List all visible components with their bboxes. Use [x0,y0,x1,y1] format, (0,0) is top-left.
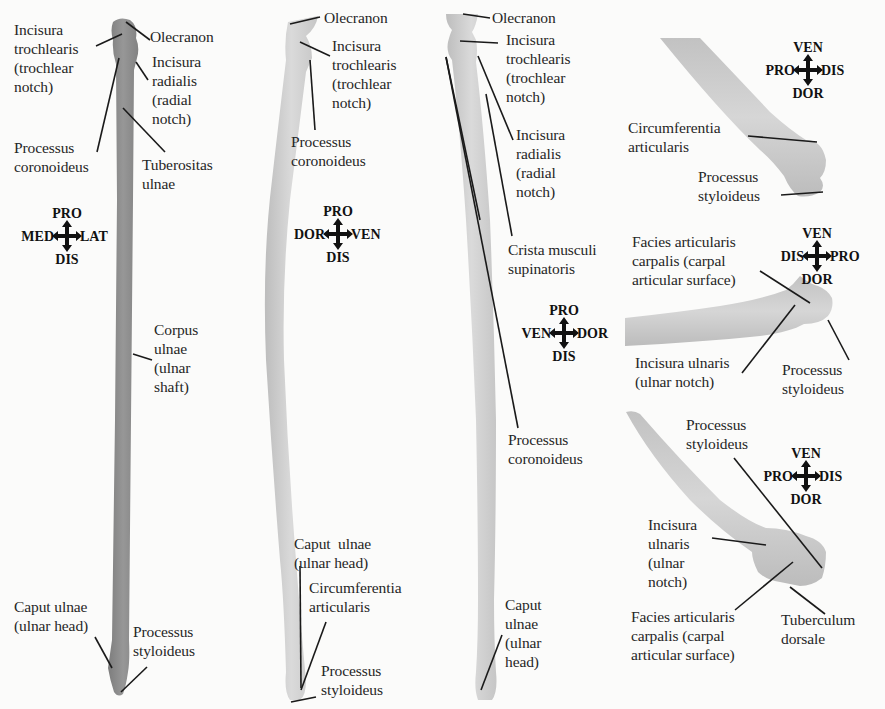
orientation-compass-panel2: PRO DOR VEN DIS [283,204,393,266]
compass-right: VEN [351,227,381,242]
label-corpus-ulnae: Corpus ulnae (ulnar shaft) [154,320,198,396]
label-olecranon-2: Olecranon [324,8,388,27]
label-processus-styloideus: Processus styloideus [133,622,195,660]
compass-bottom: DIS [12,252,122,267]
label-incisura-trochlearis: Incisura trochlearis (trochlear notch) [14,20,78,96]
label-tuberculum-dorsale: Tuberculum dorsale [781,610,855,648]
four-way-arrow-icon [549,317,579,349]
four-way-arrow-icon [52,220,82,252]
label-caput-ulnae-3: Caput ulnae (ulnar head) [505,595,542,671]
orientation-compass-panel4b: VEN DIS PRO DOR [762,226,872,288]
label-tuberositas-ulnae: Tuberositas ulnae [142,155,213,193]
label-processus-styloideus-4b: Processus styloideus [782,360,844,398]
label-circumferentia-articularis-2: Circumferentia articularis [309,578,401,616]
label-incisura-radialis-3: Incisura radialis (radial notch) [516,125,565,201]
compass-bottom: DOR [751,492,861,507]
compass-right: DIS [821,63,844,78]
label-caput-ulnae-2: Caput ulnae (ulnar head) [294,534,371,572]
compass-bottom: DOR [753,86,863,101]
orientation-compass-panel4c: VEN PRO DIS DOR [751,446,861,508]
label-caput-ulnae: Caput ulnae (ulnar head) [14,597,88,635]
anatomy-figure: Incisura trochlearis (trochlear notch) O… [0,0,885,709]
compass-left: PRO [765,63,795,78]
four-way-arrow-icon [802,240,832,272]
label-facies-articularis-carpalis-4c: Facies articularis carpalis (carpal arti… [631,607,735,664]
label-processus-coronoideus-3: Processus coronoideus [508,430,583,468]
label-incisura-radialis: Incisura radialis (radial notch) [152,52,201,128]
label-processus-coronoideus-2: Processus coronoideus [291,132,366,170]
compass-bottom: DIS [509,349,619,364]
compass-right: DIS [819,469,842,484]
label-processus-styloideus-4a: Processus styloideus [698,167,760,205]
orientation-compass-panel1: PRO MED LAT DIS [12,206,122,268]
bone-illustrations [0,0,885,709]
four-way-arrow-icon [793,54,823,86]
label-processus-styloideus-4c: Processus styloideus [686,415,748,453]
compass-left: VEN [521,326,551,341]
label-circumferentia-articularis-4a: Circumferentia articularis [628,118,720,156]
compass-right: PRO [830,249,860,264]
label-olecranon: Olecranon [150,27,214,46]
label-incisura-trochlearis-3: Incisura trochlearis (trochlear notch) [506,30,570,106]
label-processus-styloideus-2: Processus styloideus [321,661,383,699]
label-processus-coronoideus: Processus coronoideus [14,138,89,176]
label-incisura-ulnaris-4b: Incisura ulnaris (ulnar notch) [635,353,729,391]
label-incisura-ulnaris-4c: Incisura ulnaris (ulnar notch) [648,515,697,591]
compass-left: PRO [763,469,793,484]
compass-top: VEN [762,226,872,241]
compass-top: PRO [12,206,122,221]
compass-left: MED [21,229,54,244]
label-incisura-trochlearis-2: Incisura trochlearis (trochlear notch) [332,36,396,112]
orientation-compass-panel4a: VEN PRO DIS DOR [753,40,863,102]
compass-top: PRO [509,303,619,318]
label-crista-musculi-supinatoris: Crista musculi supinatoris [508,240,597,278]
compass-bottom: DIS [283,250,393,265]
four-way-arrow-icon [791,460,821,492]
compass-bottom: DOR [762,272,872,287]
compass-left: DOR [294,227,325,242]
compass-right: DOR [577,326,608,341]
label-olecranon-3: Olecranon [492,8,556,27]
compass-right: LAT [80,229,108,244]
compass-top: VEN [751,446,861,461]
compass-left: DIS [781,249,804,264]
compass-top: VEN [753,40,863,55]
ulna-cranial-view [446,14,497,700]
four-way-arrow-icon [323,218,353,250]
orientation-compass-panel3: PRO VEN DOR DIS [509,303,619,365]
compass-top: PRO [283,204,393,219]
label-facies-articularis-carpalis-4b: Facies articularis carpalis (carpal arti… [632,232,736,289]
